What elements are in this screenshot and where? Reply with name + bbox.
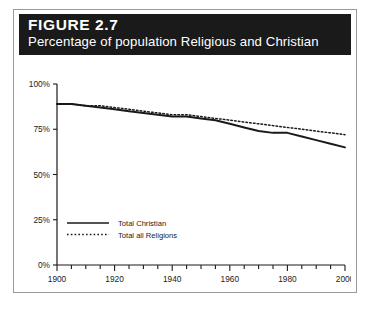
x-axis-tick-label: 1920 — [105, 274, 124, 284]
x-axis-tick-label: 1980 — [278, 274, 297, 284]
chart-plot-area: 0%25%50%75%100% 190019201940196019802000… — [19, 60, 351, 288]
legend-label: Total all Religions — [118, 231, 177, 240]
line-chart: 0%25%50%75%100% 190019201940196019802000… — [19, 60, 351, 288]
legend-label: Total Christian — [118, 219, 166, 228]
chart-legend: Total ChristianTotal all Religions — [67, 219, 177, 240]
y-axis: 0%25%50%75%100% — [29, 79, 57, 270]
figure-number: FIGURE 2.7 — [28, 16, 118, 34]
x-axis-tick-label: 2000 — [336, 274, 351, 284]
chart-series-line — [57, 104, 345, 147]
x-axis: 190019201940196019802000 — [48, 265, 351, 284]
y-axis-tick-label: 25% — [33, 215, 50, 225]
figure-container: FIGURE 2.7 Percentage of population Reli… — [0, 0, 372, 309]
y-axis-tick-label: 50% — [33, 170, 50, 180]
x-axis-tick-label: 1960 — [221, 274, 240, 284]
y-axis-tick-label: 0% — [38, 260, 51, 270]
figure-title-banner: FIGURE 2.7 Percentage of population Reli… — [19, 14, 351, 55]
figure-subtitle: Percentage of population Religious and C… — [28, 34, 319, 49]
x-axis-tick-label: 1940 — [163, 274, 182, 284]
y-axis-tick-label: 75% — [33, 124, 50, 134]
y-axis-tick-label: 100% — [29, 79, 51, 89]
x-axis-tick-label: 1900 — [48, 274, 67, 284]
chart-series-group — [57, 104, 345, 147]
